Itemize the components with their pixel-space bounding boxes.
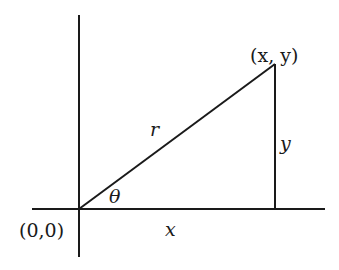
angle-label: θ [109,185,121,207]
hypotenuse-label: r [150,118,161,140]
point-label: (x, y) [250,44,298,66]
opposite-label: y [279,132,291,154]
adjacent-label: x [165,218,176,240]
origin-label: (0,0) [19,219,64,241]
polar-diagram: (x, y) r y θ (0,0) x [0,0,339,270]
